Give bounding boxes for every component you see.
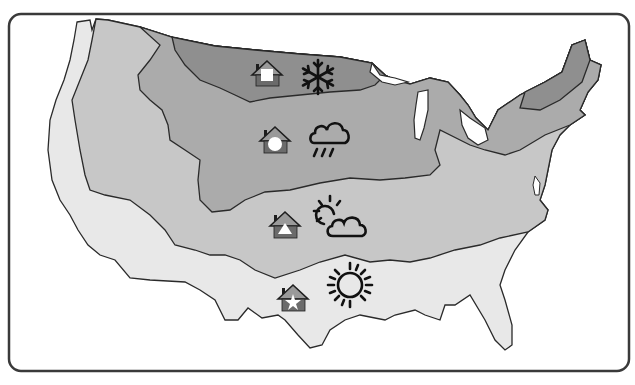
square-symbol <box>261 69 273 81</box>
circle-symbol <box>268 137 282 151</box>
climate-zone-map <box>0 0 635 385</box>
